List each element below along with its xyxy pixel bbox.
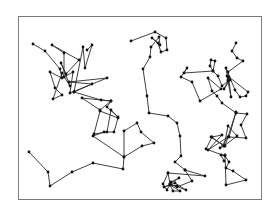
walk-node (149, 56, 152, 59)
walk-node (180, 76, 183, 79)
walk-node (204, 175, 207, 178)
walk-node (174, 161, 177, 164)
walk-node (91, 44, 94, 47)
walk-node (154, 31, 157, 34)
walk-node (136, 122, 139, 125)
walk-node (169, 184, 172, 187)
walk-node (230, 96, 233, 99)
walk-node (225, 167, 228, 170)
walk-node (61, 94, 64, 97)
walk-node (212, 70, 215, 73)
walk-node (92, 135, 95, 138)
walk-node (123, 130, 126, 133)
walk-node (221, 102, 224, 105)
walk-node (220, 154, 223, 157)
walk-node (51, 44, 54, 47)
walk-node (84, 67, 87, 70)
walk-node (191, 81, 194, 84)
walk-node (221, 85, 224, 88)
walk-node (82, 46, 85, 49)
walk-node (217, 75, 220, 78)
walk-node (91, 83, 94, 86)
walk-node (245, 95, 248, 98)
walk-node (106, 106, 109, 109)
walk-node (160, 51, 163, 54)
walk-node (92, 162, 95, 165)
walk-node (123, 156, 126, 159)
walk-node (47, 171, 50, 174)
walk-node (225, 184, 228, 187)
walk-node (110, 109, 113, 112)
walk-node (117, 117, 120, 120)
random-walk-diagram (0, 0, 276, 219)
walk-node (81, 97, 84, 100)
walk-node (183, 72, 186, 75)
walk-node (73, 91, 76, 94)
walk-node (71, 171, 74, 174)
plot-frame (19, 17, 262, 200)
walk-node (106, 77, 109, 80)
walk-node (167, 115, 170, 118)
walk-node (245, 137, 248, 140)
walk-node (174, 182, 177, 185)
walk-node (86, 49, 89, 52)
walk-node (130, 40, 133, 43)
walk-node (165, 37, 168, 40)
walk-node (176, 122, 179, 125)
walk-node (216, 95, 219, 98)
walk-node (166, 189, 169, 192)
walk-node (63, 76, 66, 79)
walk-node (214, 60, 217, 63)
walk-node (228, 76, 231, 79)
walk-node (247, 91, 250, 94)
walk-node (211, 90, 214, 93)
walk-node (140, 131, 143, 134)
walk-node (52, 98, 55, 101)
walk-node (234, 89, 237, 92)
walk-node (150, 46, 153, 49)
walk-node (54, 87, 57, 90)
walk-node (231, 50, 234, 53)
walk-node (72, 71, 75, 74)
walk-node (179, 190, 182, 193)
walk-node (153, 142, 156, 145)
walk-node (78, 59, 81, 62)
walk-node (157, 42, 160, 45)
walk-node (103, 131, 106, 134)
walk-node (223, 145, 226, 148)
walk-node (61, 72, 64, 75)
walk-node (158, 36, 161, 39)
walk-node (159, 44, 162, 47)
walk-node (236, 135, 239, 138)
walk-node (49, 71, 52, 74)
walk-node (142, 68, 145, 71)
walk-node (242, 60, 245, 63)
walk-node (99, 110, 102, 113)
walk-node (44, 50, 47, 53)
walk-node (68, 81, 71, 84)
walk-node (245, 179, 248, 182)
walk-node (220, 88, 223, 91)
walk-node (210, 59, 213, 62)
walk-node (223, 160, 226, 163)
walk-node (163, 186, 166, 189)
walk-node (172, 190, 175, 193)
walk-node (240, 124, 243, 127)
walk-node (205, 148, 208, 151)
walk-node (59, 68, 62, 71)
walk-node (69, 85, 72, 88)
walk-node (113, 131, 116, 134)
walk-node (207, 77, 210, 80)
walk-node (186, 67, 189, 70)
walk-node (179, 135, 182, 138)
walk-node (146, 95, 149, 98)
walk-node (224, 154, 227, 157)
walk-node (180, 155, 183, 158)
walk-node (219, 147, 222, 150)
walk-node (191, 180, 194, 183)
walk-node (69, 92, 72, 95)
walk-node (60, 62, 63, 65)
walk-node (199, 100, 202, 103)
walk-node (221, 134, 224, 137)
walk-node (122, 168, 125, 171)
